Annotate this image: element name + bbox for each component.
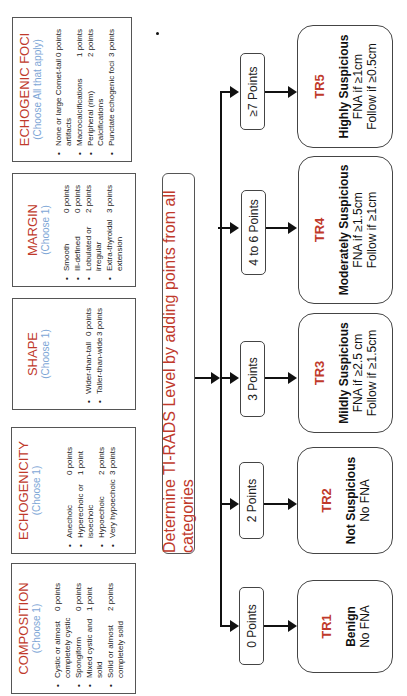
arrow-head-icon (230, 620, 239, 632)
points-box-0: 0 Points (239, 587, 264, 665)
list-item: Anechoic0 points (65, 433, 75, 548)
determine-level-text: Determine TI-RADS Level by adding points… (161, 174, 197, 553)
arrow-head-icon (230, 372, 239, 384)
tr-code: TR2 (319, 488, 334, 513)
tr-risk: Benign (344, 606, 358, 647)
connector-line (264, 503, 289, 505)
tr1-box: TR1 Benign No FNA (297, 580, 393, 673)
list-item: Taller-than-wide3 points (95, 304, 105, 404)
list-item: Solid or almost completely solid2 points (106, 569, 126, 688)
category-title: ECHOGENIC FOCI (17, 23, 32, 156)
tr-code: TR5 (312, 74, 327, 99)
category-subtitle: (Choose 1) (40, 304, 52, 404)
echogenicity-box: ECHOGENICITY (Choose 1) Anechoic0 points… (11, 427, 136, 554)
list-item: Macrocalcifications1 points (75, 23, 85, 156)
category-title: ECHOGENICITY (16, 433, 31, 548)
tr2-box: TR2 Not Suspicious No FNA (297, 447, 393, 554)
category-title: COMPOSITION (16, 569, 31, 688)
arrow-head-icon (230, 86, 239, 98)
points-box-4-to-6: 4 to 6 Points (241, 190, 266, 275)
connector-line (265, 377, 289, 379)
list-item: Hypoechoic2 points (97, 433, 107, 548)
list-item: Extra-thyroidal extension3 points (105, 179, 125, 281)
tirads-flowchart: COMPOSITION (Choose 1) Cystic or almost … (0, 0, 407, 696)
category-subtitle: (Choose 1) (31, 569, 43, 688)
points-box-3: 3 Points (240, 341, 265, 417)
category-subtitle: (Choose 1) (40, 179, 52, 281)
category-subtitle: (Choose 1) (31, 433, 43, 548)
category-title: MARGIN (25, 179, 40, 281)
composition-box: COMPOSITION (Choose 1) Cystic or almost … (11, 563, 136, 694)
connector-line (266, 227, 289, 229)
points-box-7-plus: ≥7 Points (240, 53, 265, 130)
arrow-head-icon (230, 498, 239, 510)
tr-risk: Not Suspicious (344, 457, 358, 544)
tr-recommendation: No FNA (358, 479, 372, 522)
tr-recommendation: FNA if ≥1cm (351, 54, 365, 119)
list-item: Cystic or almost completely cystic0 poin… (53, 569, 73, 688)
stray-dot (156, 32, 159, 35)
tr-risk: Moderately Suspicious (337, 165, 351, 296)
tr-recommendation: FNA if ≥2.5 cm (351, 334, 365, 413)
tr-risk: Mildly Suspicious (337, 322, 351, 423)
tr-code: TR3 (312, 361, 327, 386)
arrow-head-icon (288, 498, 297, 510)
tr-code: TR4 (312, 218, 327, 243)
list-item: Wider-than-tall0 points (84, 304, 94, 404)
list-item: Smooth0 points (62, 179, 72, 281)
margin-box: MARGIN (Choose 1) Smooth0 points Ill-def… (12, 173, 136, 287)
spine-line (220, 91, 222, 626)
list-item: Mixed cystic and solid1 point (85, 569, 105, 688)
tr3-box: TR3 Mildly Suspicious FNA if ≥2.5 cm Fol… (298, 313, 393, 433)
list-item: Hyperechoic or isoechoic1 point (76, 433, 96, 548)
list-item: Spongiform0 points (74, 569, 84, 688)
connector-line (265, 91, 289, 93)
arrow-head-icon (211, 372, 220, 384)
shape-box: SHAPE (Choose 1) Wider-than-tall0 points… (12, 298, 136, 410)
arrow-head-icon (288, 372, 297, 384)
arrow-head-icon (288, 222, 297, 234)
tr-recommendation: Follow if ≥1.5cm (365, 330, 379, 417)
category-title: SHAPE (25, 304, 40, 404)
points-box-2: 2 Points (239, 462, 264, 539)
tr-recommendation: Follow if ≥1cm (365, 192, 379, 269)
tr5-box: TR5 Highly Suspicious FNA if ≥1cm Follow… (297, 25, 393, 148)
arrow-head-icon (230, 222, 239, 234)
tr-recommendation: Follow if ≥0.5cm (365, 43, 379, 130)
category-subtitle: (Choose All that apply) (32, 23, 44, 156)
list-item: Punctate echogenic foci3 points (107, 23, 117, 156)
list-item: Peripheral (rim) Calcifications2 points (86, 23, 106, 156)
tr-code: TR1 (319, 614, 334, 639)
arrow-head-icon (288, 620, 297, 632)
list-item: Lobulated or irregular2 points (84, 179, 104, 281)
list-item: Very hypoechoic3 points (108, 433, 118, 548)
list-item: None or large Comet-tail artifacts0 poin… (54, 23, 74, 156)
tr4-box: TR4 Moderately Suspicious FNA if ≥1.5cm … (298, 156, 393, 304)
echogenic-foci-box: ECHOGENIC FOCI (Choose All that apply) N… (12, 17, 132, 162)
determine-level-box: Determine TI-RADS Level by adding points… (162, 173, 195, 554)
connector-line (264, 625, 289, 627)
tr-risk: Highly Suspicious (337, 35, 351, 139)
tr-recommendation: No FNA (358, 605, 372, 648)
arrow-head-icon (288, 86, 297, 98)
tr-recommendation: FNA if ≥1.5cm (351, 192, 365, 267)
list-item: Ill-defined0 points (73, 179, 83, 281)
